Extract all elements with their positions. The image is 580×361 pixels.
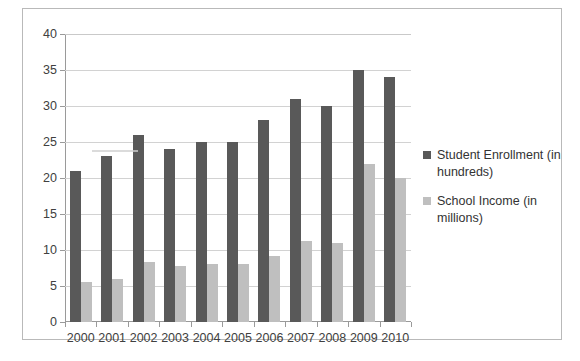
y-axis-tick [60, 34, 65, 35]
x-axis-label: 2000 [67, 331, 95, 345]
x-axis-tick [380, 322, 381, 327]
x-axis-tick [254, 322, 255, 327]
x-axis-tick [65, 322, 66, 327]
x-axis-tick [128, 322, 129, 327]
x-axis-tick [285, 322, 286, 327]
chart-frame: 0510152025303540 20002001200220032004200… [22, 8, 562, 340]
x-axis-tick [348, 322, 349, 327]
bar-2005-series-1 [238, 264, 249, 322]
x-axis-label: 2003 [161, 331, 189, 345]
y-axis-label: 40 [17, 27, 57, 41]
y-axis-tick [60, 106, 65, 107]
bar-2002-series-1 [144, 262, 155, 322]
x-axis-label: 2009 [350, 331, 378, 345]
y-axis-label: 30 [17, 99, 57, 113]
y-axis-tick [60, 250, 65, 251]
bar-2004-series-1 [207, 264, 218, 322]
bar-2001-series-1 [112, 279, 123, 322]
y-axis-label: 5 [17, 279, 57, 293]
legend-entry-0[interactable]: Student Enrollment (in hundreds) [423, 147, 580, 180]
bar-2009-series-0 [353, 70, 364, 322]
bar-2000-series-0 [70, 171, 81, 322]
bar-2003-series-0 [164, 149, 175, 322]
bar-2003-series-1 [175, 266, 186, 322]
y-axis-label: 35 [17, 63, 57, 77]
y-axis-tick [60, 142, 65, 143]
bar-2009-series-1 [364, 164, 375, 322]
x-axis-tick [222, 322, 223, 327]
y-axis-tick [60, 178, 65, 179]
bar-2010-series-0 [384, 77, 395, 322]
bar-2000-series-1 [81, 282, 92, 322]
bar-2002-series-0 [133, 135, 144, 322]
y-axis-tick [60, 214, 65, 215]
y-axis-tick [60, 70, 65, 71]
x-axis-label: 2005 [224, 331, 252, 345]
bar-2007-series-0 [290, 99, 301, 322]
bar-2005-series-0 [227, 142, 238, 322]
bar-2007-series-1 [301, 241, 312, 322]
x-axis-label: 2006 [256, 331, 284, 345]
bar-2001-series-0 [101, 156, 112, 322]
x-axis-label: 2001 [98, 331, 126, 345]
y-axis-tick [60, 286, 65, 287]
x-axis-tick [191, 322, 192, 327]
bar-2006-series-1 [269, 256, 280, 322]
x-axis-tick [317, 322, 318, 327]
y-axis-label: 15 [17, 207, 57, 221]
y-axis-label: 25 [17, 135, 57, 149]
x-axis-tick [411, 322, 412, 327]
plot-region: 0510152025303540 20002001200220032004200… [65, 34, 411, 322]
x-axis-tick [96, 322, 97, 327]
x-axis-label: 2004 [193, 331, 221, 345]
x-axis-label: 2007 [287, 331, 315, 345]
bar-2010-series-1 [395, 178, 406, 322]
gridline [65, 34, 411, 35]
bar-2008-series-0 [321, 106, 332, 322]
x-axis-label: 2002 [130, 331, 158, 345]
y-axis-label: 0 [17, 315, 57, 329]
legend-label: School Income (in millions) [437, 193, 580, 226]
bar-2004-series-0 [196, 142, 207, 322]
x-axis-label: 2008 [318, 331, 346, 345]
x-axis-tick [159, 322, 160, 327]
legend-entry-1[interactable]: School Income (in millions) [423, 193, 580, 226]
bar-2006-series-0 [258, 120, 269, 322]
legend-label: Student Enrollment (in hundreds) [437, 147, 580, 180]
x-axis-label: 2010 [381, 331, 409, 345]
square-marker-dark [423, 151, 431, 159]
chart-legend: Student Enrollment (in hundreds)School I… [423, 147, 580, 240]
bar-2008-series-1 [332, 243, 343, 322]
square-marker-light [423, 197, 431, 205]
y-axis-label: 10 [17, 243, 57, 257]
y-axis-label: 20 [17, 171, 57, 185]
